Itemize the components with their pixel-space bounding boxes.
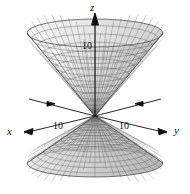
axis-y-arrowhead [158,129,167,135]
axis-y-label: y [174,125,179,136]
axis-y-tick-label: 10 [119,121,129,131]
axis-x-arrowhead [24,129,33,135]
axis-z-tick-label: 10 [82,41,92,51]
axis-z-label: z [90,2,94,13]
axis-x-tick-label: 10 [53,121,63,131]
axis-x-label: x [7,126,12,137]
figure-canvas: x y z 10 10 10 [0,0,190,194]
lower-nappe [27,116,163,182]
cone-plot-svg [0,0,190,194]
